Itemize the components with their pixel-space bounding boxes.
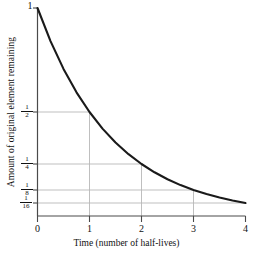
x-tick-label-1: 1 — [82, 223, 98, 234]
x-tick-label-3: 3 — [186, 223, 202, 234]
fraction-numerator: 1 — [20, 156, 34, 163]
half-life-decay-chart: Amount of original element remaining — [0, 0, 253, 255]
fraction-numerator: 1 — [19, 195, 33, 202]
y-tick-label-1: 1 — [24, 0, 36, 11]
x-axis-ticks — [38, 216, 246, 222]
x-tick-label-0: 0 — [30, 223, 46, 234]
fraction-numerator: 1 — [20, 104, 34, 111]
fraction-numerator: 1 — [20, 182, 34, 189]
y-tick-label-one-half: 1 2 — [20, 104, 34, 119]
y-tick-label-one-quarter: 1 4 — [20, 156, 34, 171]
plot-canvas — [0, 0, 253, 255]
x-axis-title: Time (number of half-lives) — [0, 238, 253, 248]
x-tick-label-2: 2 — [134, 223, 150, 234]
x-tick-label-4: 4 — [238, 223, 254, 234]
fraction-denominator: 2 — [20, 112, 34, 119]
fraction-denominator: 16 — [19, 203, 33, 210]
y-tick-label-one-sixteenth: 1 16 — [19, 195, 33, 210]
fraction-denominator: 4 — [20, 164, 34, 171]
